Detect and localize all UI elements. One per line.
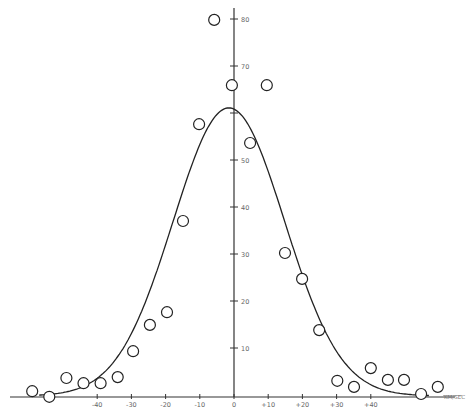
data-point: [27, 386, 38, 397]
data-point: [365, 363, 376, 374]
svg-text:-20: -20: [160, 401, 171, 409]
velocity-distribution-chart: -40-30-20-100+10+20+30+40 10203040507080…: [0, 0, 473, 414]
svg-text:40: 40: [241, 204, 249, 212]
y-tick: 10: [230, 345, 249, 353]
data-point: [194, 119, 205, 130]
x-tick: -30: [126, 394, 137, 409]
data-point: [399, 374, 410, 385]
data-point: [178, 216, 189, 227]
data-point: [226, 80, 237, 91]
data-point: [162, 307, 173, 318]
y-tick: 80: [230, 16, 249, 24]
data-point: [95, 378, 106, 389]
y-tick: 30: [230, 251, 249, 259]
x-tick: -20: [160, 394, 171, 409]
x-axis-unit-label: KM/SEC: [444, 394, 465, 400]
x-tick: +20: [296, 394, 310, 409]
svg-text:-10: -10: [194, 401, 205, 409]
x-tick: +10: [261, 394, 275, 409]
svg-text:0: 0: [232, 401, 236, 409]
svg-text:10: 10: [241, 345, 249, 353]
x-tick: +40: [364, 394, 378, 409]
data-point: [349, 381, 360, 392]
data-point: [382, 374, 393, 385]
data-points: [27, 14, 444, 402]
x-axis: -40-30-20-100+10+20+30+40: [10, 394, 462, 409]
svg-text:20: 20: [241, 298, 249, 306]
svg-text:+40: +40: [364, 401, 378, 409]
data-point: [416, 389, 427, 400]
data-point: [128, 346, 139, 357]
data-point: [314, 325, 325, 336]
svg-text:50: 50: [241, 157, 249, 165]
y-axis: 10203040507080: [230, 8, 249, 397]
data-point: [144, 319, 155, 330]
svg-text:-40: -40: [92, 401, 103, 409]
y-tick: 50: [230, 157, 249, 165]
data-point: [280, 248, 291, 259]
svg-text:-30: -30: [126, 401, 137, 409]
svg-text:+20: +20: [296, 401, 310, 409]
data-point: [245, 138, 256, 149]
svg-text:70: 70: [241, 63, 249, 71]
data-point: [61, 373, 72, 384]
data-point: [44, 391, 55, 402]
data-point: [261, 80, 272, 91]
svg-text:+30: +30: [330, 401, 344, 409]
x-tick: -10: [194, 394, 205, 409]
svg-text:80: 80: [241, 16, 249, 24]
svg-text:30: 30: [241, 251, 249, 259]
y-tick: 20: [230, 298, 249, 306]
data-point: [78, 378, 89, 389]
data-point: [297, 273, 308, 284]
x-tick: +30: [330, 394, 344, 409]
data-point: [112, 372, 123, 383]
data-point: [432, 381, 443, 392]
y-tick: 70: [230, 63, 249, 71]
data-point: [209, 14, 220, 25]
svg-text:+10: +10: [261, 401, 275, 409]
y-tick: 40: [230, 204, 249, 212]
x-tick: -40: [92, 394, 103, 409]
data-point: [332, 375, 343, 386]
